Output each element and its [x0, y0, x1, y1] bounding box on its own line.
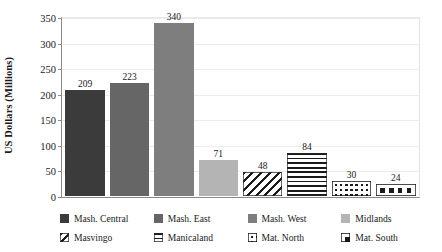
chart-legend: Mash. CentralMash. EastMash. WestMidland… — [60, 209, 435, 247]
y-axis-tick-mark — [58, 18, 62, 19]
bar[interactable] — [376, 184, 415, 196]
bar[interactable] — [154, 23, 193, 196]
legend-label: Manicaland — [168, 233, 213, 243]
legend-item[interactable]: Mash. East — [154, 214, 248, 224]
bar-value-label: 24 — [376, 173, 415, 183]
y-axis-tick-label: 50 — [46, 166, 57, 177]
bar-value-label: 84 — [287, 142, 326, 152]
legend-item[interactable]: Mash. Central — [60, 214, 154, 224]
y-axis-tick-label: 250 — [40, 64, 56, 75]
bar-slot: 209 — [65, 18, 104, 196]
bar[interactable] — [65, 90, 104, 196]
legend-label: Mash. East — [168, 214, 211, 224]
bar-slot: 48 — [243, 18, 282, 196]
legend-item[interactable]: Mat. South — [341, 233, 435, 243]
plot-wrapper: 350300250200150100500 209223340714884302… — [61, 17, 420, 198]
bar-slot: 84 — [287, 18, 326, 196]
y-axis-tick-mark — [58, 69, 62, 70]
legend-item[interactable]: Masvingo — [60, 233, 154, 243]
legend-swatch-icon — [248, 233, 257, 242]
legend-swatch-icon — [60, 233, 69, 242]
legend-label: Mat. South — [355, 233, 398, 243]
bar-value-label: 209 — [65, 79, 104, 89]
y-axis-tick-mark — [58, 197, 62, 198]
bar-value-label: 48 — [243, 161, 282, 171]
bar-value-label: 340 — [154, 12, 193, 22]
bar-slot: 24 — [376, 18, 415, 196]
y-axis-tick-mark — [58, 171, 62, 172]
y-axis-tick-label: 350 — [40, 13, 56, 24]
y-axis-tick-label: 300 — [40, 38, 56, 49]
bar-slot: 30 — [332, 18, 371, 196]
bar-series: 2092233407148843024 — [63, 18, 418, 196]
legend-label: Mash. West — [262, 214, 307, 224]
y-axis-title-text: US Dollars (Millions) — [4, 56, 15, 153]
y-axis-tick-label: 150 — [40, 115, 56, 126]
legend-swatch-icon — [60, 214, 69, 223]
y-axis-tick-mark — [58, 95, 62, 96]
y-axis-tick-label: 100 — [40, 140, 56, 151]
bar[interactable] — [287, 153, 326, 196]
bar-slot: 71 — [199, 18, 238, 196]
bar[interactable] — [110, 83, 149, 196]
legend-item[interactable]: Midlands — [341, 214, 435, 224]
bar[interactable] — [332, 181, 371, 196]
legend-swatch-icon — [154, 233, 163, 242]
legend-swatch-icon — [341, 214, 350, 223]
y-axis-tick-label: 0 — [51, 192, 56, 203]
legend-label: Midlands — [355, 214, 391, 224]
legend-item[interactable]: Manicaland — [154, 233, 248, 243]
legend-swatch-icon — [341, 233, 350, 242]
y-axis-tick-mark — [58, 44, 62, 45]
bar-slot: 223 — [110, 18, 149, 196]
legend-label: Masvingo — [74, 233, 112, 243]
y-axis-tick-mark — [58, 146, 62, 147]
bar-value-label: 30 — [332, 170, 371, 180]
legend-label: Mash. Central — [74, 214, 128, 224]
bar-slot: 340 — [154, 18, 193, 196]
legend-swatch-icon — [248, 214, 257, 223]
bar[interactable] — [243, 172, 282, 196]
legend-label: Mat. North — [262, 233, 305, 243]
y-axis-tick-mark — [58, 120, 62, 121]
legend-item[interactable]: Mat. North — [248, 233, 342, 243]
bar-value-label: 71 — [199, 149, 238, 159]
bar[interactable] — [199, 160, 238, 196]
plot-area: 350300250200150100500 209223340714884302… — [61, 17, 420, 198]
y-axis-title: US Dollars (Millions) — [1, 10, 17, 200]
bar-chart: US Dollars (Millions) 350300250200150100… — [0, 0, 442, 252]
y-axis-tick-label: 200 — [40, 89, 56, 100]
legend-item[interactable]: Mash. West — [248, 214, 342, 224]
bar-value-label: 223 — [110, 72, 149, 82]
legend-swatch-icon — [154, 214, 163, 223]
